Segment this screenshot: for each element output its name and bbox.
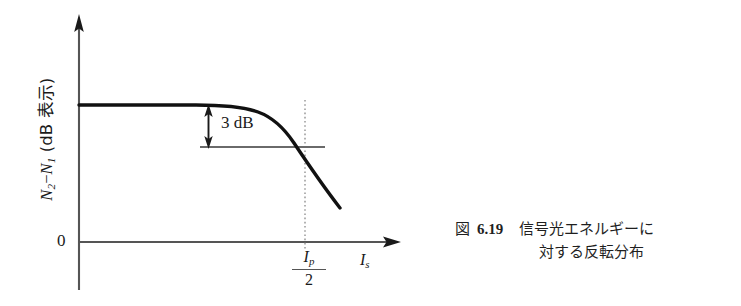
y-axis — [74, 14, 84, 290]
saturation-curve — [79, 105, 340, 208]
caption-text-line-1: 信号光エネルギーに — [519, 220, 654, 238]
caption-line-1: 図6.19信号光エネルギーに — [455, 218, 654, 241]
caption-fig-word: 図 — [455, 220, 470, 238]
plot-area: N2−N1 (dB 表示) 0 3 dB Ip 2 Is — [0, 0, 440, 306]
y-axis-label-n2: N2 — [37, 184, 56, 201]
y-axis-label-minus: − — [37, 174, 56, 183]
caption-fig-number: 6.19 — [477, 221, 503, 237]
x-axis — [79, 237, 401, 248]
three-db-measure-arrow — [204, 104, 212, 149]
figure-container: N2−N1 (dB 表示) 0 3 dB Ip 2 Is 図6.19信号光エネル… — [0, 0, 741, 306]
x-axis-label: Is — [360, 252, 370, 270]
caption-text-line-2: 対する反転分布 — [455, 241, 654, 264]
y-axis-label-n1: N1 — [37, 158, 56, 175]
three-db-label: 3 dB — [221, 114, 254, 131]
plot-svg — [0, 0, 440, 306]
y-axis-label-unit: (dB 表示) — [37, 78, 56, 158]
figure-caption: 図6.19信号光エネルギーに 対する反転分布 — [455, 218, 654, 265]
xtick-numerator: Ip — [287, 249, 331, 268]
x-axis-tick-label-ip-over-2: Ip 2 — [287, 249, 331, 288]
x-axis-label-var: Is — [360, 251, 370, 268]
fraction-bar — [292, 269, 326, 270]
origin-label: 0 — [57, 232, 66, 249]
y-axis-label: N2−N1 (dB 表示) — [39, 44, 57, 234]
xtick-denominator: 2 — [287, 271, 331, 288]
